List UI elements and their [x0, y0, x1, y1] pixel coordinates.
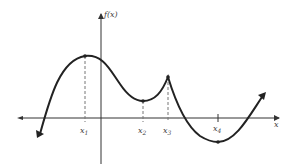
x-axis-label: x — [274, 120, 279, 129]
x4-label: x4 — [213, 124, 222, 134]
local-min-point — [141, 99, 145, 103]
function-graph: f(x) x x1 x2 x3 x4 — [0, 0, 294, 168]
min-point — [216, 140, 220, 144]
x-axis-left-arrow-icon — [17, 116, 23, 120]
x3-label: x3 — [163, 126, 172, 136]
y-axis-label: f(x) — [103, 10, 118, 19]
cusp-point — [166, 75, 170, 79]
max-point — [83, 54, 87, 58]
function-curve — [40, 56, 262, 142]
x2-label: x2 — [138, 126, 147, 136]
x1-label: x1 — [80, 126, 88, 136]
